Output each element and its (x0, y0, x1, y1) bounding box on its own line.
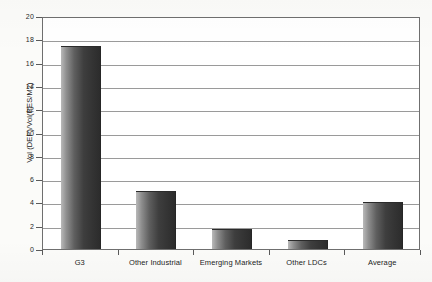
y-axis-tick-label: 10 (4, 130, 34, 137)
x-axis-tick (269, 250, 270, 255)
x-axis-tick (420, 250, 421, 255)
x-axis-tick (42, 250, 43, 255)
y-axis-tick-label: 8 (4, 153, 34, 160)
bar (212, 229, 252, 249)
plot-area (42, 17, 420, 250)
x-axis-category-label: Other Industrial (118, 258, 194, 267)
y-axis-tick-label: 2 (4, 223, 34, 230)
gridline (43, 41, 419, 42)
y-axis-tick-label: 16 (4, 60, 34, 67)
y-axis-tick-label: 4 (4, 199, 34, 206)
x-axis-category-label: Other LDCs (269, 258, 345, 267)
chart-page: Vol (DEP)/Vol(RES/M2) 02468101214161820 … (0, 0, 432, 282)
y-axis-tick-label: 6 (4, 176, 34, 183)
x-axis-category-label: Average (344, 258, 420, 267)
y-axis-tick-label: 20 (4, 13, 34, 20)
bar (136, 191, 176, 249)
x-axis-tick (193, 250, 194, 255)
bar (363, 202, 403, 249)
y-axis-tick-label: 0 (4, 246, 34, 253)
x-axis-tick (344, 250, 345, 255)
y-axis-tick-label: 18 (4, 36, 34, 43)
bar (61, 46, 101, 249)
x-axis-tick (118, 250, 119, 255)
bar (288, 240, 328, 249)
x-axis-category-label: G3 (42, 258, 118, 267)
x-axis-category-label: Emerging Markets (193, 258, 269, 267)
y-axis-tick-label: 14 (4, 83, 34, 90)
y-axis-tick-label: 12 (4, 106, 34, 113)
